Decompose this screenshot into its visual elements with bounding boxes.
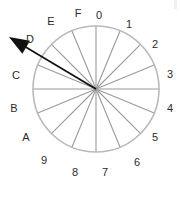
tick-label-f: F [75, 8, 82, 19]
tick-label-a: A [22, 132, 29, 143]
tick-label-6: 6 [134, 157, 140, 168]
dial-svg [0, 0, 181, 199]
tick-label-1: 1 [126, 19, 132, 30]
tick-label-9: 9 [41, 155, 47, 166]
tick-label-3: 3 [167, 69, 173, 80]
corner-artifact [174, 0, 177, 9]
tick-label-e: E [47, 16, 54, 27]
tick-label-7: 7 [102, 167, 108, 178]
tick-label-2: 2 [152, 39, 158, 50]
dial-figure: 0123456789ABCDEF [0, 0, 181, 199]
tick-label-d: D [26, 34, 34, 45]
dial-spoke [96, 44, 141, 89]
tick-label-c: C [12, 70, 20, 81]
tick-label-b: B [10, 103, 17, 114]
tick-label-5: 5 [152, 132, 158, 143]
tick-label-0: 0 [96, 10, 102, 21]
tick-label-8: 8 [72, 167, 78, 178]
dial-spoke [96, 89, 141, 134]
tick-label-4: 4 [167, 103, 173, 114]
dial-spoke [51, 89, 96, 134]
